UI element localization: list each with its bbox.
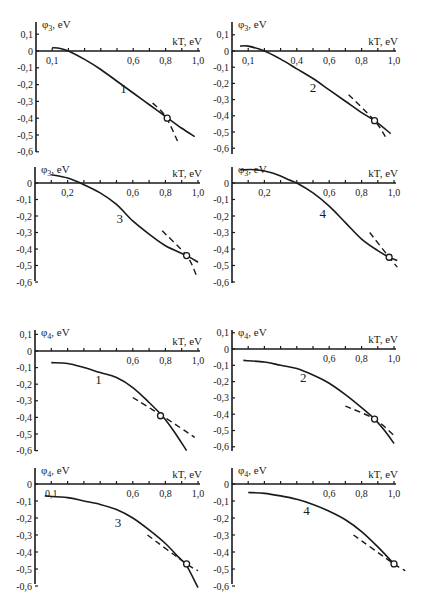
intersection-marker	[184, 253, 190, 259]
x-axis-title: kT, eV	[368, 468, 398, 480]
y-tick-label: -0,5	[16, 564, 32, 575]
y-tick-label: 0,1	[217, 327, 230, 338]
y-tick-label: -0,4	[16, 412, 32, 423]
y-tick-label: -0,4	[16, 244, 32, 255]
intersection-marker	[372, 118, 378, 124]
x-tick-label: 0,1	[46, 55, 59, 66]
curve-number-label: 1	[95, 372, 102, 387]
y-tick-label: -0,6	[16, 581, 32, 592]
intersection-marker	[164, 115, 170, 121]
y-tick-label: -0,3	[16, 530, 32, 541]
y-tick-label: -0,1	[213, 360, 229, 371]
solid-curve	[51, 363, 186, 451]
x-tick-label: 0,8	[355, 187, 368, 198]
x-tick-label: 1,0	[388, 55, 401, 66]
y-tick-label: -0,2	[213, 376, 229, 387]
solid-curve	[248, 493, 394, 564]
y-tick-label: -0,3	[213, 392, 229, 403]
chart-panel-phi3-3: 0-0,1-0,2-0,3-0,4-0,5-0,60,20,60,81,0kT,…	[16, 163, 204, 288]
x-tick-label: 1,0	[388, 488, 401, 499]
dashed-curve	[370, 233, 398, 268]
curve-number-label: 3	[117, 211, 124, 226]
y-tick-label: 0,1	[21, 29, 34, 40]
curve-number-label: 4	[303, 503, 310, 518]
y-tick-label: -0,1	[16, 362, 32, 373]
y-tick-label: -0,2	[16, 379, 32, 390]
y-tick-label: 0	[224, 178, 229, 189]
y-tick-label: -0,2	[17, 79, 33, 90]
y-tick-label: -0,4	[213, 110, 229, 121]
x-tick-label: 0,6	[127, 55, 140, 66]
y-axis-title: φ3, eV	[42, 18, 71, 33]
y-tick-label: -0,6	[16, 445, 32, 456]
x-tick-label: 0,6	[323, 55, 336, 66]
solid-curve	[45, 496, 198, 588]
y-tick-label: 0	[28, 46, 33, 57]
x-tick-label: 0,6	[323, 488, 336, 499]
intersection-marker	[391, 561, 397, 567]
y-tick-label: -0,4	[16, 547, 32, 558]
y-tick-label: -0,1	[213, 194, 229, 205]
x-tick-label: 0,8	[355, 353, 368, 364]
y-tick-label: -0,4	[17, 113, 33, 124]
x-axis-title: kT, eV	[172, 468, 202, 480]
x-tick-label: 0,6	[323, 187, 336, 198]
y-tick-label: 0,1	[20, 329, 33, 340]
dashed-curve	[147, 535, 198, 571]
y-tick-label: 0	[27, 178, 32, 189]
y-tick-label: -0,3	[17, 96, 33, 107]
y-tick-label: 0	[224, 479, 229, 490]
solid-curve	[243, 360, 394, 443]
x-tick-label: 0,6	[323, 353, 336, 364]
y-tick-label: -0,1	[213, 496, 229, 507]
y-tick-label: -0,4	[213, 244, 229, 255]
curve-number-label: 3	[115, 515, 122, 530]
y-tick-label: -0,2	[16, 211, 32, 222]
y-axis-title: φ4, eV	[41, 326, 70, 341]
y-tick-label: -0,3	[213, 530, 229, 541]
chart-panel-phi4-4: 0-0,1-0,2-0,3-0,4-0,5-0,60,60,81,0kT, eV…	[213, 464, 405, 592]
x-tick-label: 0,2	[61, 187, 74, 198]
x-tick-label: 0,8	[355, 55, 368, 66]
y-tick-label: -0,5	[17, 130, 33, 141]
x-tick-label: 0,6	[127, 488, 140, 499]
y-tick-label: -0,3	[213, 227, 229, 238]
curve-number-label: 2	[300, 370, 307, 385]
y-tick-label: -0,6	[17, 146, 33, 157]
y-axis-title: φ3, eV	[238, 18, 267, 33]
y-axis-title: φ4, eV	[238, 326, 267, 341]
x-tick-label: 0,8	[355, 488, 368, 499]
y-tick-label: -0,5	[213, 564, 229, 575]
y-tick-label: -0,3	[213, 94, 229, 105]
y-tick-label: 0	[224, 344, 229, 355]
y-tick-label: -0,4	[213, 409, 229, 420]
x-tick-label: 1,0	[192, 187, 205, 198]
intersection-marker	[184, 561, 190, 567]
x-axis-title: kT, eV	[172, 35, 202, 47]
x-tick-label: 1,0	[192, 55, 205, 66]
curve-number-label: 4	[319, 206, 326, 221]
y-tick-label: -0,2	[213, 211, 229, 222]
y-tick-label: -0,5	[16, 260, 32, 271]
x-tick-label: 1,0	[192, 355, 205, 366]
y-tick-label: 0	[27, 346, 32, 357]
y-axis-title: φ4, eV	[238, 464, 267, 479]
y-tick-label: 0,1	[217, 29, 230, 40]
y-tick-label: -0,1	[213, 62, 229, 73]
y-tick-label: -0,6	[213, 581, 229, 592]
y-tick-label: -0,1	[16, 194, 32, 205]
y-tick-label: -0,5	[213, 425, 229, 436]
chart-panel-phi4-2: 0,10-0,1-0,2-0,3-0,4-0,5-0,60,60,81,0kT,…	[213, 326, 400, 452]
intersection-marker	[372, 416, 378, 422]
y-tick-label: -0,4	[213, 547, 229, 558]
x-axis-title: kT, eV	[368, 35, 398, 47]
y-tick-label: -0,6	[213, 143, 229, 154]
y-tick-label: -0,3	[16, 395, 32, 406]
x-axis-title: kT, eV	[368, 167, 398, 179]
y-tick-label: -0,6	[16, 277, 32, 288]
figure-grid: 0,10-0,1-0,2-0,3-0,4-0,5-0,60,10,60,81,0…	[0, 0, 422, 605]
x-axis-title: kT, eV	[172, 335, 202, 347]
x-tick-label: 0,8	[159, 355, 172, 366]
dashed-curve	[162, 231, 196, 276]
intersection-marker	[386, 254, 392, 260]
